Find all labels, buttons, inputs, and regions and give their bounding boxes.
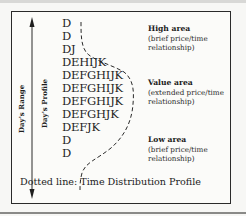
low-area-annotation: Low area (brief price/time relationship) [148,135,208,164]
bottom-rule [0,212,246,214]
high-area-desc-2: relationship) [148,43,208,53]
value-area-title: Value area [148,78,224,88]
tpo-row: D [62,147,71,160]
days-profile-label: Day's Profile [40,79,49,128]
value-area-desc-2: relationship) [148,97,224,107]
high-area-desc-1: (brief price/time [148,34,208,44]
low-area-desc-1: (brief price/time [148,145,208,155]
top-edge-shade [0,0,246,3]
legend-footer: Dotted line: Time Distribution Profile [20,176,201,187]
diagram-page: Day's Range Day's Profile D D DJ DEHIJK … [0,0,246,216]
low-area-desc-2: relationship) [148,154,208,164]
high-area-annotation: High area (brief price/time relationship… [148,24,208,53]
low-area-title: Low area [148,135,208,145]
value-area-desc-1: (extended price/time [148,88,224,98]
high-area-title: High area [148,24,208,34]
days-range-label: Day's Range [17,85,26,133]
value-area-annotation: Value area (extended price/time relation… [148,78,224,107]
